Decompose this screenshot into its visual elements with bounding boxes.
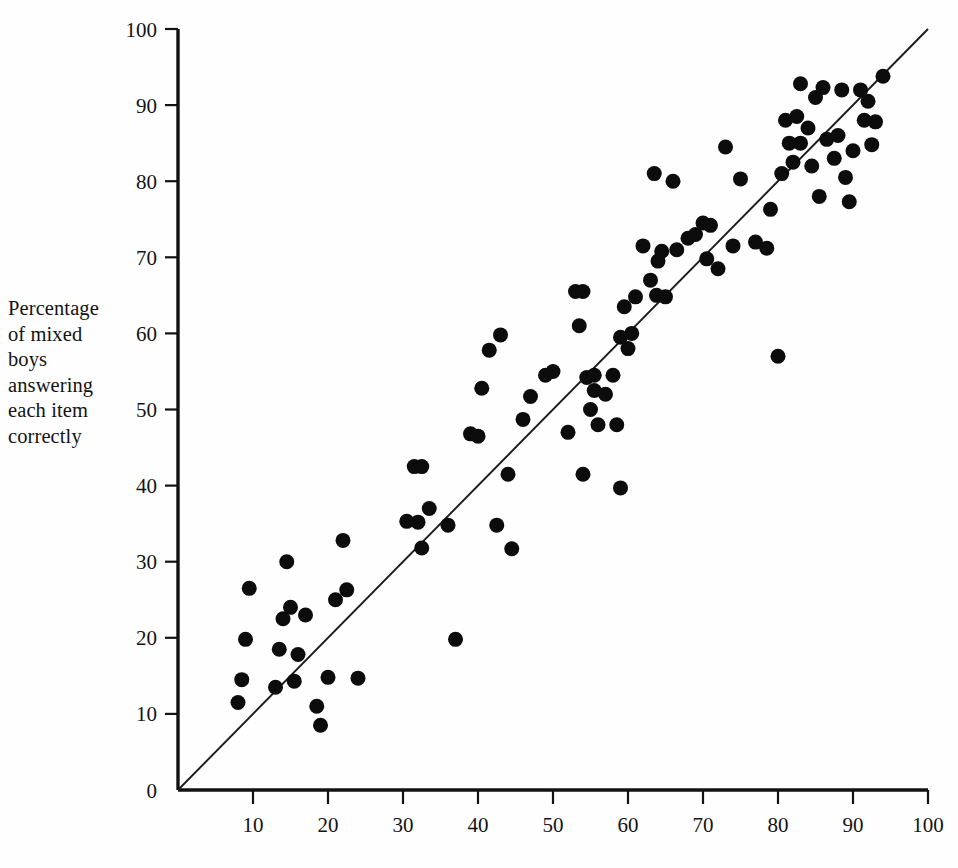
data-point	[238, 632, 253, 647]
data-point	[291, 647, 306, 662]
data-point	[448, 632, 463, 647]
data-point	[636, 238, 651, 253]
data-point	[669, 242, 684, 257]
data-point	[733, 171, 748, 186]
data-point	[414, 459, 429, 474]
data-point	[774, 166, 789, 181]
data-point	[861, 94, 876, 109]
data-point	[804, 158, 819, 173]
data-point	[268, 680, 283, 695]
data-point	[718, 139, 733, 154]
data-point	[726, 238, 741, 253]
data-point	[759, 241, 774, 256]
data-point	[628, 289, 643, 304]
y-axis-tick-label: 60	[136, 322, 157, 346]
data-point	[309, 699, 324, 714]
data-point	[771, 349, 786, 364]
x-axis-tick-label: 30	[393, 813, 414, 837]
x-axis-tick-label: 100	[912, 813, 944, 837]
data-point	[647, 166, 662, 181]
data-point	[816, 80, 831, 95]
data-point	[493, 327, 508, 342]
x-axis-tick-label: 50	[543, 813, 564, 837]
data-point	[576, 467, 591, 482]
data-point	[868, 114, 883, 129]
data-point	[339, 582, 354, 597]
data-point	[876, 69, 891, 84]
data-point	[474, 381, 489, 396]
x-axis-tick-label: 60	[618, 813, 639, 837]
y-axis: 0102030405060708090100	[126, 18, 179, 803]
data-point	[321, 670, 336, 685]
data-point	[272, 642, 287, 657]
data-point	[242, 581, 257, 596]
data-point	[834, 82, 849, 97]
data-point	[831, 128, 846, 143]
data-point	[471, 429, 486, 444]
data-point	[501, 467, 516, 482]
y-axis-tick-label: 70	[136, 246, 157, 270]
data-point	[489, 518, 504, 533]
x-axis-tick-label: 70	[693, 813, 714, 837]
data-point	[591, 417, 606, 432]
data-point	[842, 194, 857, 209]
data-point	[572, 318, 587, 333]
data-point	[827, 151, 842, 166]
data-point	[576, 284, 591, 299]
data-point	[516, 412, 531, 427]
data-point	[313, 718, 328, 733]
scatter-plot-figure: Percentage of mixed boys answering each …	[0, 0, 958, 868]
data-point	[441, 518, 456, 533]
data-point	[287, 674, 302, 689]
data-point	[609, 417, 624, 432]
data-point	[711, 261, 726, 276]
data-point	[328, 592, 343, 607]
data-point	[587, 368, 602, 383]
data-point	[598, 387, 613, 402]
data-point	[351, 671, 366, 686]
data-point	[786, 155, 801, 170]
data-point	[812, 189, 827, 204]
data-point	[422, 501, 437, 516]
data-point	[613, 480, 628, 495]
data-point	[789, 109, 804, 124]
data-point	[666, 174, 681, 189]
data-point	[583, 402, 598, 417]
data-point	[793, 76, 808, 91]
data-point	[801, 120, 816, 135]
data-point	[298, 607, 313, 622]
y-axis-tick-label: 40	[136, 474, 157, 498]
plot-canvas: 0102030405060708090100 10203040506070809…	[0, 0, 958, 868]
y-axis-tick-label: 90	[136, 94, 157, 118]
data-point	[561, 425, 576, 440]
data-point	[279, 554, 294, 569]
data-point	[643, 273, 658, 288]
x-axis-tick-label: 90	[843, 813, 864, 837]
data-point	[617, 299, 632, 314]
data-point	[482, 343, 497, 358]
data-point	[411, 515, 426, 530]
data-point	[654, 244, 669, 259]
data-point	[504, 541, 519, 556]
data-point	[846, 143, 861, 158]
x-axis-tick-label: 20	[318, 813, 339, 837]
data-point	[234, 672, 249, 687]
data-point	[793, 136, 808, 151]
data-point	[763, 202, 778, 217]
data-point	[864, 137, 879, 152]
data-point	[231, 695, 246, 710]
x-axis-tick-label: 40	[468, 813, 489, 837]
y-axis-tick-label: 20	[136, 626, 157, 650]
data-point	[838, 170, 853, 185]
data-point	[621, 341, 636, 356]
data-point	[658, 289, 673, 304]
data-point	[414, 541, 429, 556]
x-axis: 102030405060708090100	[178, 790, 944, 837]
data-point	[336, 533, 351, 548]
y-axis-tick-label: 80	[136, 170, 157, 194]
y-axis-tick-label: 50	[136, 398, 157, 422]
y-axis-tick-label: 30	[136, 550, 157, 574]
data-point	[283, 600, 298, 615]
y-axis-tick-label: 10	[136, 702, 157, 726]
data-point	[624, 326, 639, 341]
